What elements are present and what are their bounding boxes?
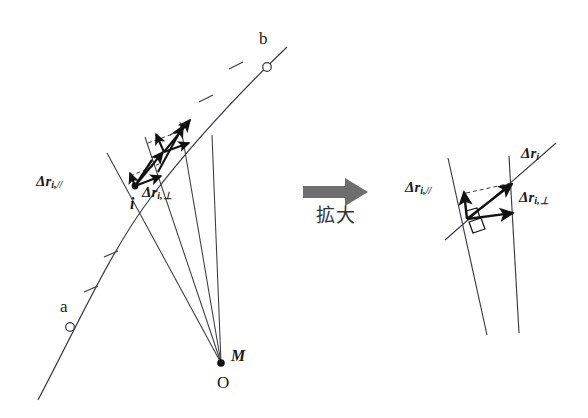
left-panel-group: [38, 47, 287, 400]
magnify-arrow-icon: [303, 178, 368, 206]
label-delta-r-total-right: Δri: [521, 146, 539, 162]
point-b-marker: [263, 63, 272, 72]
point-i-marker: [132, 183, 139, 190]
figure-root: a b i M O Δri,// Δri,⊥ 拡大 Δri Δri,// Δri…: [0, 0, 588, 418]
radial-line: [180, 122, 221, 363]
figure-canvas: [0, 0, 588, 418]
point-label-i: i: [130, 196, 134, 212]
radial-line-group: [107, 122, 221, 363]
magnify-arrow-label: 拡大: [316, 206, 356, 225]
arc-tick: [199, 95, 213, 102]
label-delta-r-perp-right: Δri,⊥: [519, 190, 549, 206]
radial-line: [212, 135, 221, 363]
vector-triad-2: [156, 120, 190, 152]
point-a-marker: [66, 323, 75, 332]
magnify-arrow-group: [303, 178, 368, 206]
radial-line: [145, 137, 221, 363]
arc-tick: [229, 62, 243, 69]
label-delta-r-perp-left: Δri,⊥: [142, 185, 172, 201]
origin-label-O: O: [217, 374, 229, 391]
mass-label-M: M: [231, 348, 245, 364]
orbit-arc: [38, 47, 287, 400]
vector-delta-r-parallel: [464, 192, 467, 219]
point-O-marker: [217, 359, 225, 367]
point-label-a: a: [60, 298, 68, 315]
point-label-b: b: [259, 30, 268, 47]
right-panel-group: [445, 143, 556, 335]
right-angle-mark: [469, 218, 485, 233]
arc-tick: [104, 251, 118, 257]
normal-line-left: [448, 158, 487, 335]
arc-tick: [84, 286, 98, 292]
label-delta-r-parallel-left: Δri,//: [36, 174, 62, 190]
vector-delta-r-parallel: [156, 134, 164, 152]
label-delta-r-parallel-right: Δri,//: [405, 180, 431, 196]
